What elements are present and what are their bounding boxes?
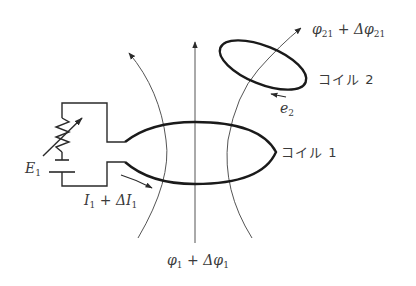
label-coil-2: コイル 2 [318, 73, 374, 86]
field-lines [129, 28, 301, 243]
label-current: I1 + ΔI1 [84, 193, 137, 210]
current-sub-2: 1 [132, 200, 138, 210]
current-delta: Δ [116, 192, 126, 208]
variable-resistor [43, 118, 82, 156]
induced-emf-arrow [271, 94, 286, 97]
flux21-op: + [333, 21, 354, 37]
circuit-wires [62, 103, 125, 186]
e2-sub: 2 [288, 108, 294, 118]
flux1-symbol: φ [167, 252, 177, 268]
flux21-sub-2: 21 [374, 29, 385, 39]
flux21-delta: Δ [354, 21, 364, 37]
label-induced-emf: e2 [280, 101, 294, 118]
label-flux1: φ1 + Δφ1 [167, 253, 229, 270]
flux1-symbol-2: φ [213, 252, 223, 268]
resistor-adjust-arrow [43, 118, 82, 156]
label-flux21: φ21 + Δφ21 [312, 22, 385, 39]
resistor-zigzag [56, 118, 69, 152]
mutual-induction-diagram [0, 0, 416, 286]
coil-1-loop [125, 122, 276, 184]
flux21-symbol: φ [312, 21, 322, 37]
label-coil-1: コイル 1 [281, 146, 337, 159]
battery [49, 160, 75, 172]
label-emf-source: E1 [25, 161, 41, 178]
E1-symbol: E [25, 160, 35, 176]
current-op: + [95, 192, 116, 208]
flux1-op: + [183, 252, 204, 268]
E1-sub: 1 [35, 168, 41, 178]
flux1-delta: Δ [203, 252, 213, 268]
flux1-sub-2: 1 [223, 260, 229, 270]
flux21-symbol-2: φ [364, 21, 374, 37]
field-line-left [129, 53, 167, 238]
field-line-right [227, 28, 301, 238]
flux21-sub: 21 [322, 29, 333, 39]
